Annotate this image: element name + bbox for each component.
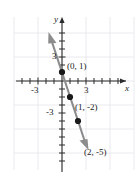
y-tick-label-3: 3 xyxy=(52,52,57,61)
y-axis xyxy=(59,17,66,172)
data-point xyxy=(75,118,81,124)
point-label-1-neg2: (1, -2) xyxy=(75,103,98,112)
x-axis xyxy=(16,78,126,85)
y-tick-label-neg3: -3 xyxy=(46,108,54,117)
plotted-line xyxy=(48,32,88,150)
point-label-2-neg5: (2, -5) xyxy=(84,148,107,157)
x-tick-label-3: 3 xyxy=(84,86,89,95)
point-label-0-1: (0, 1) xyxy=(67,62,87,71)
data-point xyxy=(59,69,65,75)
x-axis-label: x xyxy=(125,84,129,93)
data-point xyxy=(67,94,73,100)
y-axis-label: y xyxy=(54,15,58,24)
coordinate-plane xyxy=(0,0,136,176)
x-tick-label-neg3: -3 xyxy=(31,86,39,95)
graph-figure: y x -3 3 3 -3 (0, 1) (1, -2) (2, -5) xyxy=(0,0,136,176)
